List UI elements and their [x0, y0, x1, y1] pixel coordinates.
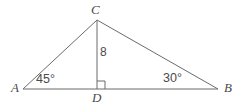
segment-ac: [23, 20, 97, 89]
vertex-label-d: D: [92, 91, 101, 104]
vertex-label-c: C: [91, 3, 100, 16]
altitude-length-label: 8: [100, 46, 107, 58]
vertex-label-a: A: [11, 81, 19, 94]
geometry-figure: C A B D 8 45° 30°: [0, 0, 242, 105]
right-angle-marker-d: [97, 81, 105, 89]
segment-cb: [97, 20, 218, 89]
vertex-label-b: B: [224, 81, 232, 94]
triangle-svg: [0, 0, 242, 105]
angle-label-b: 30°: [163, 72, 182, 85]
angle-label-a: 45°: [36, 73, 55, 86]
